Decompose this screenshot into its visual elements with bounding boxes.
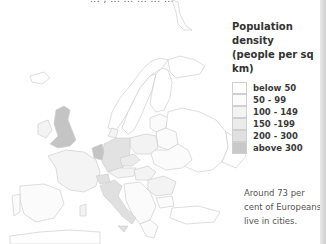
legend-swatch <box>232 106 247 118</box>
legend-items: below 50 50 - 99 100 - 149 150 -199 200 … <box>232 82 322 154</box>
legend-item: above 300 <box>232 142 322 154</box>
region-spain <box>20 184 64 222</box>
legend-label: above 300 <box>253 143 303 153</box>
legend-swatch <box>232 82 247 94</box>
legend-label: 100 - 149 <box>253 107 298 117</box>
region-romania <box>148 176 176 196</box>
legend-label: 150 -199 <box>253 119 295 129</box>
region-greece <box>140 220 158 238</box>
legend-title-line2: (people per sq km) <box>232 48 322 76</box>
region-turkey <box>170 206 220 224</box>
region-portugal <box>12 194 20 216</box>
legend-label: 200 - 300 <box>253 131 298 141</box>
page-edge-shadow <box>320 0 326 244</box>
legend-item: 150 -199 <box>232 118 322 130</box>
region-uk <box>50 106 76 148</box>
legend-swatch <box>232 94 247 106</box>
region-benelux <box>92 144 104 160</box>
cities-note: Around 73 per cent of Europeans live in … <box>244 186 324 228</box>
region-france <box>48 150 100 192</box>
legend-swatch <box>232 130 247 142</box>
region-hungary <box>134 166 156 180</box>
legend-swatch <box>232 142 247 154</box>
region-north-africa <box>10 230 100 244</box>
legend-swatch <box>232 118 247 130</box>
region-novaya-zemlya <box>172 0 192 30</box>
region-russia-north <box>168 56 205 78</box>
region-germany <box>102 138 130 172</box>
legend-item: 50 - 99 <box>232 94 322 106</box>
region-ireland <box>38 120 52 138</box>
legend: Population density (people per sq km) be… <box>232 20 322 154</box>
region-bulgaria <box>156 196 174 208</box>
region-sardinia <box>80 204 86 216</box>
region-denmark <box>108 128 118 138</box>
region-sicily <box>118 226 128 232</box>
legend-label: below 50 <box>253 83 296 93</box>
legend-item: 200 - 300 <box>232 130 322 142</box>
legend-label: 50 - 99 <box>253 95 286 105</box>
region-poland <box>130 134 158 154</box>
legend-item: 100 - 149 <box>232 106 322 118</box>
region-iceland <box>30 72 50 84</box>
legend-item: below 50 <box>232 82 322 94</box>
legend-title-line1: Population density <box>232 20 322 48</box>
page: ... , ... ... ... ... ... <box>0 0 326 244</box>
